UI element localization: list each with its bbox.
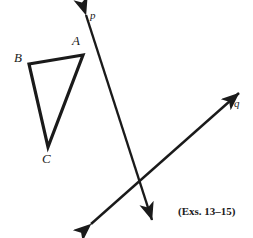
exercise-caption: (Exs. 13–15): [178, 206, 235, 217]
figure-canvas: [0, 0, 253, 238]
triangle-abc-outline: [29, 55, 83, 147]
vertex-label-a: A: [72, 34, 80, 47]
vertex-label-c: C: [42, 152, 51, 165]
line-p-segment: [86, 15, 152, 220]
vertex-label-b: B: [14, 51, 22, 64]
line-label-p: p: [90, 10, 96, 21]
geometry-figure: A B C p q (Exs. 13–15): [0, 0, 253, 238]
line-label-q: q: [234, 98, 240, 109]
